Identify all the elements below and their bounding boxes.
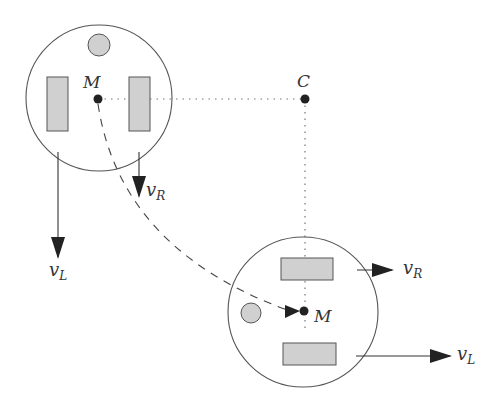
robot-final: M vR vL — [228, 237, 475, 387]
velocity-label-right-initial: vR — [146, 179, 165, 203]
robot-initial: M vL vR — [26, 25, 172, 283]
caster-wheel-final — [241, 303, 261, 323]
center-of-rotation-dot — [301, 95, 310, 104]
midpoint-label-final: M — [313, 306, 332, 326]
wheel-bottom-final — [283, 343, 336, 365]
wheel-top-final — [281, 258, 333, 280]
midpoint-label-initial: M — [82, 72, 101, 92]
velocity-label-right-final: vR — [403, 257, 422, 281]
trajectory-arrowhead — [285, 305, 300, 318]
midpoint-dot-final — [300, 307, 309, 316]
caster-wheel-initial — [88, 34, 110, 56]
center-of-rotation-label: C — [297, 71, 310, 91]
robot-kinematics-diagram: M vL vR C M vR vL — [0, 0, 503, 401]
wheel-right-initial — [129, 77, 150, 131]
wheel-left-initial — [47, 77, 68, 131]
velocity-label-left-initial: vL — [49, 259, 67, 283]
midpoint-dot-initial — [94, 95, 103, 104]
velocity-label-left-final: vL — [457, 343, 475, 367]
trajectory-arc — [98, 104, 290, 311]
